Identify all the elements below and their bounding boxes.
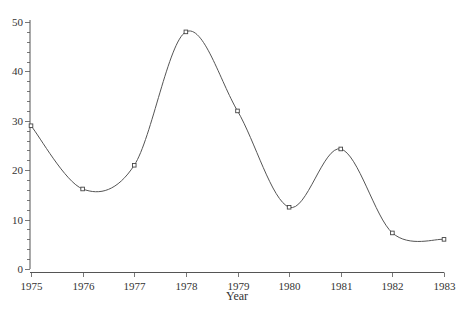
y-tick-label: 50: [12, 16, 24, 28]
x-tick-label: 1982: [382, 280, 404, 292]
y-tick-label: 40: [12, 65, 24, 77]
line-chart: 01020304050 1975197619771978197919801981…: [0, 0, 467, 315]
y-tick-label: 10: [12, 214, 24, 226]
y-tick-label: 20: [12, 164, 24, 176]
x-tick-label: 1976: [73, 280, 96, 292]
data-markers: [29, 30, 446, 241]
y-axis: 01020304050: [12, 16, 30, 275]
data-point-marker: [391, 231, 395, 235]
data-point-marker: [287, 205, 291, 209]
x-tick-label: 1980: [279, 280, 302, 292]
x-tick-label: 1983: [434, 280, 457, 292]
data-line: [31, 31, 444, 242]
y-tick-label: 0: [18, 263, 24, 275]
x-axis-title: Year: [226, 289, 248, 303]
x-tick-label: 1975: [21, 280, 44, 292]
data-point-marker: [81, 187, 85, 191]
data-point-marker: [236, 109, 240, 113]
data-point-marker: [29, 124, 33, 128]
x-tick-label: 1978: [176, 280, 199, 292]
data-point-marker: [442, 238, 446, 242]
data-point-marker: [132, 163, 136, 167]
y-tick-label: 30: [12, 115, 24, 127]
x-tick-label: 1981: [331, 280, 353, 292]
x-tick-label: 1977: [124, 280, 147, 292]
data-point-marker: [339, 147, 343, 151]
data-point-marker: [184, 30, 188, 34]
